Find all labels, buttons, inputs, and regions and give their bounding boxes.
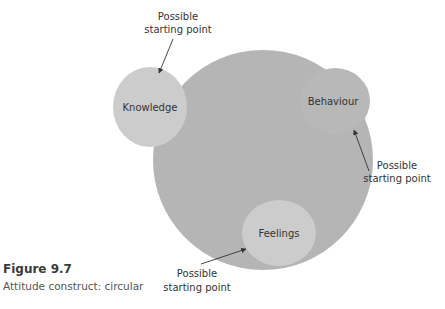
node-feelings-label: Feelings [259, 228, 300, 239]
annotation-feelings-line1: Possible [177, 268, 217, 279]
annotation-behaviour-line1: Possible [377, 160, 417, 171]
annotation-behaviour-line2: starting point [363, 173, 431, 184]
node-behaviour-label: Behaviour [308, 96, 360, 107]
annotation-knowledge-line2: starting point [144, 24, 212, 35]
node-knowledge: Knowledge [113, 67, 187, 147]
figure-number: Figure 9.7 [3, 262, 72, 276]
arrow-knowledge-icon [159, 39, 173, 73]
node-behaviour: Behaviour [300, 68, 370, 134]
figure-caption: Attitude construct: circular [3, 280, 143, 292]
node-feelings: Feelings [242, 200, 316, 266]
annotation-knowledge-line1: Possible [158, 11, 198, 22]
node-knowledge-label: Knowledge [123, 102, 178, 113]
annotation-knowledge: Possible starting point [144, 11, 212, 73]
annotation-feelings-line2: starting point [163, 282, 231, 293]
